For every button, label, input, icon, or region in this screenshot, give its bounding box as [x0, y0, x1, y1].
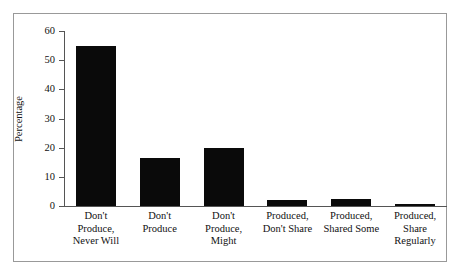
- y-axis-tick-label: 20: [45, 142, 56, 153]
- y-axis-tick-label: 40: [45, 84, 56, 95]
- y-axis-tick-label: 60: [45, 26, 56, 37]
- x-axis-category-label-line: Don't: [64, 210, 128, 223]
- bar: [267, 200, 307, 206]
- bar: [395, 204, 435, 206]
- x-axis-category-label-line: Produce,: [192, 223, 256, 236]
- x-axis-category-label-line: Shared Some: [319, 223, 383, 236]
- bar-slot: [383, 31, 447, 206]
- x-axis-category-label: Produced,Shared Some: [319, 210, 383, 235]
- x-axis-category-label: Don'tProduce,Might: [192, 210, 256, 248]
- x-axis-category-label-line: Produced,: [319, 210, 383, 223]
- x-axis-category-label-line: Don't Share: [256, 223, 320, 236]
- bar-slot: [192, 31, 256, 206]
- x-axis-category-label-line: Might: [192, 235, 256, 248]
- x-axis-category-label-line: Produced,: [383, 210, 447, 223]
- x-axis-category-label-line: Regularly: [383, 235, 447, 248]
- bar-slot: [256, 31, 320, 206]
- x-axis-category-label: Don'tProduce: [128, 210, 192, 235]
- bar-slot: [319, 31, 383, 206]
- x-axis-category-label-line: Never Will: [64, 235, 128, 248]
- plot-area: Percentage 0102030405060: [64, 31, 447, 207]
- x-axis-category-label-line: Share: [383, 223, 447, 236]
- bar: [204, 148, 244, 206]
- x-axis-category-label-line: Don't: [192, 210, 256, 223]
- x-axis-category-label: Produced,ShareRegularly: [383, 210, 447, 248]
- x-axis-tick-labels: Don'tProduce,Never WillDon'tProduceDon't…: [64, 210, 447, 260]
- bar: [331, 199, 371, 206]
- x-axis-category-label-line: Produce: [128, 223, 192, 236]
- bar-slot: [128, 31, 192, 206]
- x-axis-line: [64, 206, 447, 207]
- x-axis-category-label-line: Don't: [128, 210, 192, 223]
- bar-slot: [64, 31, 128, 206]
- y-axis-tick-mark: [59, 206, 65, 207]
- y-axis-tick-label: 0: [50, 201, 55, 212]
- y-axis-tick-label: 10: [45, 172, 56, 183]
- y-axis-title: Percentage: [13, 96, 24, 142]
- y-axis-tick-label: 30: [45, 113, 56, 124]
- x-axis-category-label: Don'tProduce,Never Will: [64, 210, 128, 248]
- x-axis-category-label: Produced,Don't Share: [256, 210, 320, 235]
- bar: [140, 158, 180, 206]
- x-axis-category-label-line: Produced,: [256, 210, 320, 223]
- bar: [76, 46, 116, 206]
- chart-figure-frame: Percentage 0102030405060 Don'tProduce,Ne…: [13, 13, 447, 262]
- y-axis-tick-label: 50: [45, 55, 56, 66]
- x-axis-category-label-line: Produce,: [64, 223, 128, 236]
